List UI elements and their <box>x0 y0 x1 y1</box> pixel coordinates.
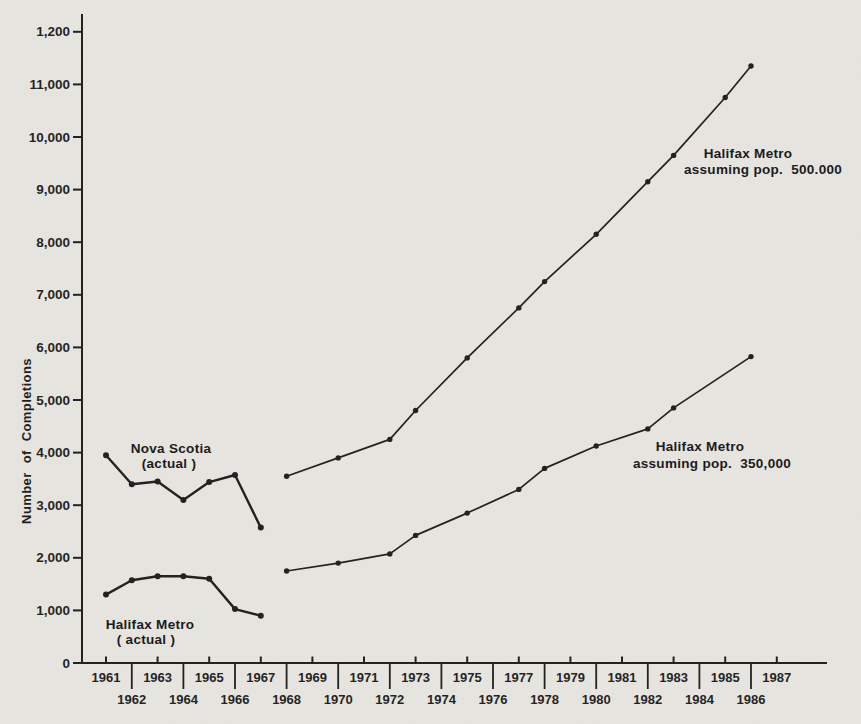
chart-page: 01,0002,0003,0004,0005,0006,0007,0008,00… <box>0 0 861 724</box>
y-axis-title: Number of Completions <box>19 358 34 524</box>
x-tick-label: 1965 <box>195 670 224 685</box>
data-point-nova-scotia-actual <box>180 497 186 503</box>
data-point-halifax-metro-actual <box>155 573 161 579</box>
data-point-halifax-metro-assuming-pop-350-000 <box>594 443 599 448</box>
data-point-halifax-metro-actual <box>206 576 212 582</box>
data-point-halifax-metro-assuming-pop-500-000 <box>671 153 676 158</box>
x-tick-label: 1967 <box>246 670 275 685</box>
data-point-halifax-metro-assuming-pop-350-000 <box>542 466 547 471</box>
data-point-halifax-metro-assuming-pop-350-000 <box>671 405 676 410</box>
completions-line-chart: 01,0002,0003,0004,0005,0006,0007,0008,00… <box>0 0 861 724</box>
x-tick-label: 1980 <box>582 692 611 707</box>
y-tick-label: 7,000 <box>36 287 70 302</box>
series-label-line: (actual ) <box>142 456 196 471</box>
x-tick-label: 1970 <box>324 692 353 707</box>
data-point-halifax-metro-assuming-pop-500-000 <box>336 455 341 460</box>
y-tick-label: 8,000 <box>36 235 70 250</box>
x-tick-label: 1972 <box>375 692 404 707</box>
data-point-halifax-metro-assuming-pop-500-000 <box>284 474 289 479</box>
data-point-halifax-metro-actual <box>129 577 135 583</box>
x-tick-label: 1977 <box>504 670 533 685</box>
x-tick-label: 1963 <box>143 670 172 685</box>
x-tick-label: 1962 <box>117 692 146 707</box>
data-point-halifax-metro-assuming-pop-350-000 <box>413 533 418 538</box>
x-tick-label: 1975 <box>453 670 482 685</box>
x-tick-label: 1968 <box>272 692 301 707</box>
series-label-line: ( actual ) <box>117 632 176 647</box>
y-tick-label: 6,000 <box>36 340 70 355</box>
x-tick-label: 1987 <box>762 670 791 685</box>
data-point-halifax-metro-assuming-pop-350-000 <box>645 426 650 431</box>
y-tick-label: 0 <box>62 656 70 671</box>
x-tick-label: 1974 <box>427 692 457 707</box>
x-tick-label: 1978 <box>530 692 559 707</box>
data-point-halifax-metro-assuming-pop-350-000 <box>284 568 289 573</box>
data-point-nova-scotia-actual <box>129 481 135 487</box>
data-point-nova-scotia-actual <box>206 479 212 485</box>
y-tick-label: 10,000 <box>29 130 70 145</box>
data-point-halifax-metro-assuming-pop-350-000 <box>748 354 753 359</box>
x-tick-label: 1969 <box>298 670 327 685</box>
data-point-halifax-metro-actual <box>258 613 264 619</box>
series-label-line: assuming pop. 500.000 <box>684 162 842 177</box>
x-tick-label: 1984 <box>685 692 715 707</box>
x-tick-label: 1971 <box>350 670 379 685</box>
x-tick-label: 1979 <box>556 670 585 685</box>
x-tick-label: 1985 <box>711 670 740 685</box>
data-point-nova-scotia-actual <box>155 479 161 485</box>
y-tick-label: 11,000 <box>29 77 70 92</box>
series-label-line: Nova Scotia <box>131 441 212 456</box>
data-point-halifax-metro-assuming-pop-500-000 <box>594 232 599 237</box>
y-tick-label: 2,000 <box>36 550 70 565</box>
x-tick-label: 1973 <box>401 670 430 685</box>
data-point-halifax-metro-assuming-pop-500-000 <box>465 355 470 360</box>
x-tick-label: 1983 <box>659 670 688 685</box>
data-point-halifax-metro-assuming-pop-500-000 <box>413 408 418 413</box>
series-label-line: assuming pop. 350,000 <box>633 456 791 471</box>
data-point-nova-scotia-actual <box>258 525 264 531</box>
data-point-halifax-metro-actual <box>232 606 238 612</box>
y-tick-label: 1,200 <box>36 24 70 39</box>
x-tick-label: 1961 <box>92 670 121 685</box>
data-point-halifax-metro-assuming-pop-350-000 <box>336 560 341 565</box>
y-tick-label: 1,000 <box>36 603 70 618</box>
x-tick-label: 1981 <box>608 670 637 685</box>
data-point-halifax-metro-assuming-pop-500-000 <box>748 63 753 68</box>
x-tick-label: 1986 <box>737 692 766 707</box>
y-tick-label: 4,000 <box>36 445 70 460</box>
x-tick-label: 1964 <box>169 692 199 707</box>
data-point-halifax-metro-assuming-pop-500-000 <box>542 279 547 284</box>
data-point-halifax-metro-assuming-pop-500-000 <box>723 95 728 100</box>
data-point-nova-scotia-actual <box>103 452 109 458</box>
data-point-halifax-metro-actual <box>180 573 186 579</box>
data-point-halifax-metro-assuming-pop-350-000 <box>465 510 470 515</box>
series-line-halifax-metro-assuming-pop-500-000 <box>287 66 751 476</box>
data-point-halifax-metro-assuming-pop-500-000 <box>387 437 392 442</box>
data-point-halifax-metro-assuming-pop-350-000 <box>516 487 521 492</box>
y-tick-label: 9,000 <box>36 182 70 197</box>
series-label-line: Halifax Metro <box>106 617 195 632</box>
data-point-halifax-metro-assuming-pop-350-000 <box>387 551 392 556</box>
x-tick-label: 1976 <box>479 692 508 707</box>
data-point-nova-scotia-actual <box>232 472 238 478</box>
y-tick-label: 5,000 <box>36 393 70 408</box>
data-point-halifax-metro-assuming-pop-500-000 <box>516 305 521 310</box>
x-tick-label: 1982 <box>633 692 662 707</box>
data-point-halifax-metro-actual <box>103 592 109 598</box>
series-label-line: Halifax Metro <box>704 146 793 161</box>
data-point-halifax-metro-assuming-pop-500-000 <box>645 179 650 184</box>
series-label-line: Halifax Metro <box>656 439 745 454</box>
y-tick-label: 3,000 <box>36 498 70 513</box>
x-tick-label: 1966 <box>221 692 250 707</box>
